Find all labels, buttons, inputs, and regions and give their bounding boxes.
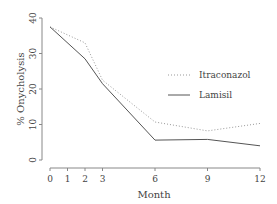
x-tick-label: 12 (254, 174, 265, 184)
x-tick-label: 9 (205, 174, 211, 184)
y-axis: 010203040 (28, 12, 42, 163)
x-axis: 01236912 (47, 168, 266, 184)
series-lamisil (50, 27, 260, 146)
x-tick-label: 2 (82, 174, 88, 184)
y-tick-label: 10 (28, 119, 38, 131)
x-tick-label: 6 (152, 174, 158, 184)
legend-label: Itraconazol (199, 70, 251, 80)
series-group (50, 27, 260, 146)
line-chart: 010203040 01236912 ItraconazolLamisil Mo… (0, 0, 277, 204)
x-tick-label: 3 (100, 174, 106, 184)
legend: ItraconazolLamisil (168, 70, 251, 100)
x-axis-label: Month (137, 189, 171, 200)
y-tick-label: 0 (28, 157, 38, 163)
y-tick-label: 20 (28, 83, 38, 95)
x-tick-label: 1 (65, 174, 71, 184)
y-axis-label: % Onycholysis (15, 52, 26, 125)
y-tick-label: 30 (28, 48, 38, 60)
x-tick-label: 0 (47, 174, 53, 184)
legend-label: Lamisil (199, 90, 232, 100)
y-tick-label: 40 (28, 12, 38, 24)
